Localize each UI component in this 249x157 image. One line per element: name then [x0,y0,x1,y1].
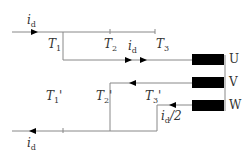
arrow-left-icon [169,102,176,108]
label-id-half: id/2 [161,110,182,125]
label-t3-prime: T3' [145,90,161,105]
phase-w-label: W [229,99,241,111]
arrow-left-icon [29,128,36,134]
label-id-in: id [27,14,36,29]
phase-u-label: U [229,53,239,65]
circuit-diagram [0,0,249,157]
label-id-mid: id [128,40,137,55]
arrow-right-icon [140,57,147,63]
arrow-right-icon [125,57,132,63]
phase-v-label: V [229,76,238,88]
label-id-out: id [27,137,36,152]
w-winding [192,100,224,111]
label-t1-prime: T1' [46,90,62,105]
arrow-right-icon [31,29,38,35]
label-t2: T2 [104,38,117,53]
label-t3: T3 [156,38,169,53]
label-t1: T1 [48,38,61,53]
label-t2-prime: T2' [96,90,112,105]
v-winding [192,77,224,88]
arrow-left-icon [129,80,136,86]
u-winding [192,54,224,65]
